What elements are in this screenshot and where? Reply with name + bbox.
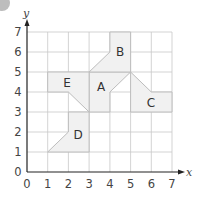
x-axis-arrow-icon (178, 170, 185, 175)
corner-marker-icon (0, 0, 10, 11)
y-axis-label: y (22, 7, 30, 20)
x-tick: 4 (106, 177, 113, 191)
shape-label-a: A (97, 80, 106, 94)
x-tick: 2 (65, 177, 72, 191)
shape-label-b: B (116, 45, 124, 59)
x-axis-label: x (186, 166, 193, 179)
y-tick: 3 (14, 105, 21, 119)
y-tick: 1 (14, 145, 21, 159)
x-tick: 6 (148, 177, 155, 191)
y-tick: 5 (14, 65, 21, 79)
y-tick: 4 (14, 85, 21, 99)
y-tick: 6 (14, 45, 21, 59)
x-tick: 3 (85, 177, 92, 191)
y-tick: 7 (14, 25, 21, 39)
shape-label-e: E (63, 76, 71, 90)
x-tick: 5 (127, 177, 134, 191)
y-axis-arrow-icon (25, 19, 30, 26)
y-tick: 0 (14, 165, 21, 179)
x-tick: 1 (44, 177, 51, 191)
y-tick-labels: 0 1 2 3 4 5 6 7 (14, 25, 21, 179)
x-tick: 0 (23, 177, 30, 191)
x-tick: 7 (168, 177, 175, 191)
shape-label-c: C (147, 96, 155, 110)
y-tick: 2 (14, 125, 21, 139)
coordinate-grid-diagram: x y 0 1 2 3 4 5 6 7 0 1 2 3 4 5 6 7 A B … (0, 0, 197, 198)
x-tick-labels: 0 1 2 3 4 5 6 7 (23, 177, 175, 191)
shape-label-d: D (73, 128, 82, 142)
